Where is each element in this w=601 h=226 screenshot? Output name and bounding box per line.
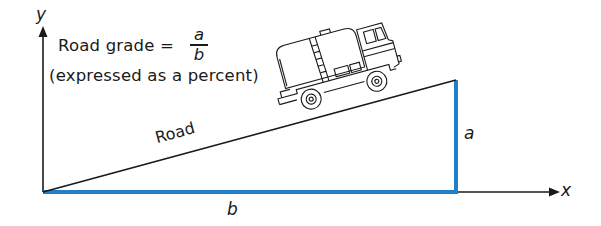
x-axis-label: x bbox=[561, 180, 571, 200]
fraction-denominator: b bbox=[190, 47, 208, 63]
run-label: b bbox=[227, 199, 238, 219]
grade-fraction: a b bbox=[190, 27, 208, 63]
rise-label: a bbox=[464, 123, 474, 143]
formula-note: (expressed as a percent) bbox=[49, 66, 259, 85]
formula-prefix: Road grade = bbox=[58, 36, 174, 55]
y-axis-arrow-icon bbox=[39, 26, 48, 37]
diagram-graphics bbox=[0, 0, 601, 226]
fraction-numerator: a bbox=[190, 27, 208, 43]
road-line bbox=[43, 80, 456, 192]
tanker-truck-icon bbox=[264, 13, 408, 117]
y-axis-label: y bbox=[36, 4, 46, 24]
road-grade-diagram: Road grade = a b (expressed as a percent… bbox=[0, 0, 601, 226]
x-axis-arrow-icon bbox=[549, 188, 560, 197]
